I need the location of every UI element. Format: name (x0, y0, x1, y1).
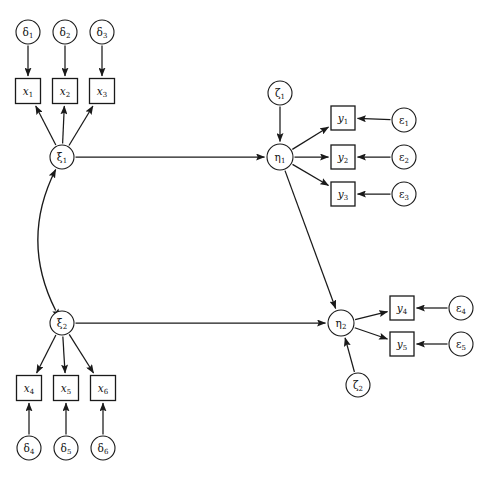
node-layer: δ1δ2δ3x1x2x3ξ1ξ2x4x5x6δ4δ5δ6ζ1η1η2ζ2y1y2… (16, 20, 474, 460)
node-eps4[interactable]: ε4 (449, 296, 473, 320)
node-eta1[interactable]: η1 (267, 144, 293, 170)
node-x4[interactable]: x4 (17, 376, 42, 401)
node-x5[interactable]: x5 (54, 376, 79, 401)
node-y4[interactable]: y4 (390, 296, 414, 320)
xi2-to-x4 (37, 335, 56, 373)
node-delta6[interactable]: δ6 (91, 436, 115, 460)
node-y2[interactable]: y2 (331, 145, 355, 169)
node-eps2[interactable]: ε2 (392, 145, 416, 169)
zeta2-to-eta2 (345, 338, 354, 372)
node-x2[interactable]: x2 (53, 79, 78, 104)
xi1-to-x1 (36, 106, 56, 145)
node-xi1[interactable]: ξ1 (50, 145, 74, 169)
node-eps5[interactable]: ε5 (449, 332, 473, 356)
eta1-to-eta2 (285, 171, 336, 309)
eta2-to-y4 (355, 312, 387, 320)
node-zeta2[interactable]: ζ2 (346, 373, 370, 397)
node-zeta1[interactable]: ζ1 (268, 81, 292, 105)
node-eps3[interactable]: ε3 (392, 182, 416, 206)
node-delta4[interactable]: δ4 (17, 436, 41, 460)
node-x3[interactable]: x3 (90, 79, 115, 104)
node-eps1[interactable]: ε1 (392, 108, 416, 132)
node-y5[interactable]: y5 (390, 332, 414, 356)
eta1-to-y3 (293, 164, 329, 185)
diagram-canvas: δ1δ2δ3x1x2x3ξ1ξ2x4x5x6δ4δ5δ6ζ1η1η2ζ2y1y2… (0, 0, 490, 481)
node-y1[interactable]: y1 (331, 106, 355, 130)
node-eta2[interactable]: η2 (328, 310, 354, 336)
xi1-to-x2 (63, 106, 65, 144)
node-delta1[interactable]: δ1 (16, 20, 40, 44)
node-xi2[interactable]: ξ2 (50, 311, 74, 335)
xi2-to-x5 (63, 336, 65, 373)
node-delta3[interactable]: δ3 (90, 20, 114, 44)
node-delta2[interactable]: δ2 (53, 20, 77, 44)
eta2-to-y5 (355, 328, 388, 339)
sem-path-diagram: δ1δ2δ3x1x2x3ξ1ξ2x4x5x6δ4δ5δ6ζ1η1η2ζ2y1y2… (0, 0, 490, 481)
node-x6[interactable]: x6 (91, 376, 116, 401)
xi1-covariance-xi2 (38, 169, 56, 310)
node-delta5[interactable]: δ5 (54, 436, 78, 460)
eta1-to-y1 (292, 127, 328, 149)
node-x1[interactable]: x1 (16, 79, 41, 104)
xi2-to-x6 (69, 334, 93, 373)
eps1-to-y1 (358, 118, 391, 119)
xi1-to-x3 (69, 106, 93, 145)
node-y3[interactable]: y3 (331, 182, 355, 206)
